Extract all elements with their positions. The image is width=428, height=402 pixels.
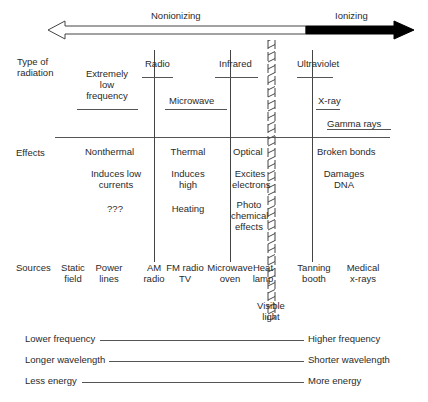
type-ultraviolet: Ultraviolet <box>297 58 339 69</box>
scale-line-wavelength <box>109 361 304 362</box>
effect-photochemical: Photo chemical effects <box>231 199 267 232</box>
effect-nonthermal: Nonthermal <box>85 146 134 157</box>
source-static-field: Static field <box>58 262 88 284</box>
scale-right-wavelength: Shorter wavelength <box>308 354 390 365</box>
infrared-bar <box>215 77 258 78</box>
effect-heating: Heating <box>164 203 212 214</box>
scale-left-frequency: Lower frequency <box>25 333 95 344</box>
effect-unknown: ??? <box>100 203 130 214</box>
type-elf: Extremely low frequency <box>82 68 132 101</box>
effect-induces-low-currents: Induces low currents <box>88 168 144 190</box>
gamma-bar <box>327 129 391 130</box>
row-label-effects: Effects <box>16 147 45 158</box>
scale-left-energy: Less energy <box>25 375 77 386</box>
microwave-bar <box>165 109 227 110</box>
row-label-sources: Sources <box>16 262 51 273</box>
visible-light-label: Visible light <box>255 300 287 322</box>
type-radio: Radio <box>145 58 170 69</box>
type-infrared: Infrared <box>219 58 252 69</box>
source-medical-xrays: Medical x-rays <box>343 262 383 284</box>
type-gamma: Gamma rays <box>327 118 381 129</box>
scale-left-wavelength: Longer wavelength <box>25 354 105 365</box>
nonionizing-label: Nonionizing <box>151 10 201 21</box>
effect-broken-bonds: Broken bonds <box>317 146 376 157</box>
effect-optical: Optical <box>233 146 263 157</box>
xray-bar <box>316 109 340 110</box>
scale-right-energy: More energy <box>308 375 361 386</box>
scale-line-energy <box>82 382 304 383</box>
type-xray: X-ray <box>318 95 341 106</box>
row-label-type: Type of radiation <box>17 56 53 78</box>
effect-damages-dna: Damages DNA <box>320 168 368 190</box>
scale-line-frequency <box>100 340 304 341</box>
ionizing-arrow <box>306 21 414 39</box>
elf-bar <box>77 109 138 110</box>
source-fm-radio-tv: FM radio TV <box>162 262 208 284</box>
source-tanning-booth: Tanning booth <box>294 262 334 284</box>
nonionizing-arrow <box>48 21 306 39</box>
effect-excites-electrons: Excites electrons <box>232 168 268 190</box>
radio-bar <box>142 77 173 78</box>
effect-induces-high: Induces high <box>164 168 212 190</box>
type-microwave: Microwave <box>169 95 214 106</box>
source-microwave-oven: Microwave oven <box>204 262 256 284</box>
ionizing-label: Ionizing <box>335 10 368 21</box>
radio-boundary-line <box>154 50 155 262</box>
scale-right-frequency: Higher frequency <box>308 333 380 344</box>
effect-thermal: Thermal <box>164 146 212 157</box>
source-heat-lamp: Heat lamp <box>252 262 274 284</box>
ultraviolet-bar <box>297 77 333 78</box>
ultraviolet-boundary-line <box>312 50 313 262</box>
effects-divider <box>55 137 390 138</box>
source-power-lines: Power lines <box>92 262 126 284</box>
